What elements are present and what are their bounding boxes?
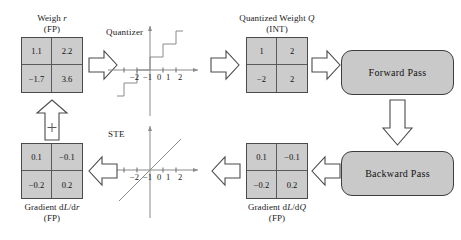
gradient-dr-cell-0-0: 0.1 <box>22 144 52 171</box>
gradient-dq-caption-line2: (FP) <box>232 213 322 224</box>
ste-tick-1: 1 <box>166 172 170 182</box>
weight-cell-0-0: 1.1 <box>22 38 52 65</box>
gradient-dq-caption: Gradient dL/dQ (FP) <box>232 202 322 223</box>
quantized-weight-caption: Quantized Weight Q (INT) <box>222 13 332 34</box>
quantized-cell-0-1: 2 <box>277 38 307 65</box>
weight-caption-line1: Weigh r <box>13 13 91 24</box>
quantizer-tick--2: −2 <box>130 72 139 82</box>
arrow-quantized-to-forward <box>311 49 341 81</box>
quantized-weight-matrix: 1 2 −2 2 <box>246 37 308 93</box>
quantizer-tick-0: 0 <box>157 72 161 82</box>
ste-tick--1: −1 <box>143 172 152 182</box>
weight-matrix: 1.1 2.2 −1.7 3.6 <box>21 37 83 93</box>
ste-tick-0: 0 <box>157 172 161 182</box>
arrow-forward-to-backward <box>381 99 414 147</box>
quantized-cell-1-0: −2 <box>247 65 277 92</box>
quantizer-tick-1: 1 <box>166 72 170 82</box>
weight-caption: Weigh r (FP) <box>13 13 91 34</box>
arrow-gradient-dr-to-weight <box>34 98 70 141</box>
quantized-cell-0-0: 1 <box>247 38 277 65</box>
gradient-dq-matrix: 0.1 −0.1 −0.2 0.2 <box>246 143 308 199</box>
gradient-dr-cell-1-1: 0.2 <box>52 171 82 198</box>
ste-plot <box>106 122 202 222</box>
gradient-dr-caption: Gradient dL/dr (FP) <box>7 202 97 223</box>
forward-pass-label: Forward Pass <box>369 67 427 78</box>
weight-cell-1-0: −1.7 <box>22 65 52 92</box>
gradient-dr-cell-0-1: −0.1 <box>52 144 82 171</box>
weight-cell-1-1: 3.6 <box>52 65 82 92</box>
gradient-dr-matrix: 0.1 −0.1 −0.2 0.2 <box>21 143 83 199</box>
quantized-weight-caption-line1: Quantized Weight Q <box>222 13 332 24</box>
gradient-dr-caption-line1: Gradient dL/dr <box>7 202 97 213</box>
arrow-quantizer-to-quantized <box>210 49 240 81</box>
gradient-dq-cell-0-0: 0.1 <box>247 144 277 171</box>
gradient-dr-cell-1-0: −0.2 <box>22 171 52 198</box>
gradient-dq-caption-line1: Gradient dL/dQ <box>232 202 322 213</box>
arrow-ste-to-gradient-dr <box>88 155 118 187</box>
quantized-cell-1-1: 2 <box>277 65 307 92</box>
ste-tick-2: 2 <box>178 172 182 182</box>
diagram-canvas: Weigh r (FP) 1.1 2.2 −1.7 3.6 Quantizer <box>0 0 461 240</box>
arrow-gradient-dq-to-ste <box>211 155 241 187</box>
quantized-weight-caption-line2: (INT) <box>222 24 332 35</box>
backward-pass-label: Backward Pass <box>365 168 430 179</box>
forward-pass-box: Forward Pass <box>341 50 454 95</box>
gradient-dq-cell-1-0: −0.2 <box>247 171 277 198</box>
weight-caption-line2: (FP) <box>13 24 91 35</box>
quantizer-plot <box>106 22 202 118</box>
weight-cell-0-1: 2.2 <box>52 38 82 65</box>
gradient-dr-caption-line2: (FP) <box>7 213 97 224</box>
gradient-dq-cell-0-1: −0.1 <box>277 144 307 171</box>
arrow-backward-to-gradient-dq <box>311 155 341 187</box>
quantizer-tick-2: 2 <box>178 72 182 82</box>
backward-pass-box: Backward Pass <box>341 151 454 196</box>
quantizer-tick--1: −1 <box>143 72 152 82</box>
ste-tick--2: −2 <box>130 172 139 182</box>
gradient-dq-cell-1-1: 0.2 <box>277 171 307 198</box>
